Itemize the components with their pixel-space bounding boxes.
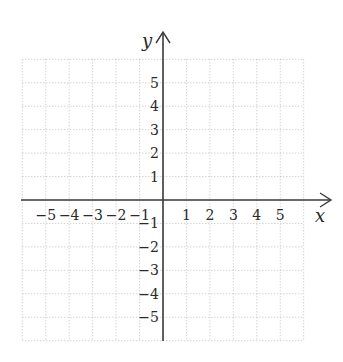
x-tick-label: −2 (106, 207, 127, 223)
x-axis-label: x (315, 205, 325, 226)
y-tick-label: 5 (150, 75, 159, 91)
axes (21, 32, 331, 341)
x-tick-label: 3 (229, 207, 238, 223)
x-tick-label: −3 (82, 207, 103, 223)
y-tick-label: −5 (138, 309, 159, 325)
y-tick-label: 1 (150, 169, 159, 185)
y-tick-label: 2 (150, 145, 159, 161)
y-tick-label: 3 (150, 122, 159, 138)
x-tick-labels: −5−4−3−2−112345 (35, 207, 284, 223)
y-axis-label: y (141, 30, 153, 51)
coordinate-plane: x y −5−4−3−2−112345 54321−1−2−3−4−5 (0, 0, 343, 362)
y-tick-label: −3 (138, 262, 159, 278)
x-tick-label: −4 (59, 207, 80, 223)
y-tick-label: −4 (138, 286, 159, 302)
x-tick-label: 5 (276, 207, 285, 223)
x-tick-label: 2 (205, 207, 214, 223)
y-tick-label: −2 (138, 239, 159, 255)
x-tick-label: −5 (35, 207, 56, 223)
y-tick-label: −1 (138, 215, 159, 231)
x-tick-label: 4 (252, 207, 261, 223)
x-tick-label: 1 (182, 207, 191, 223)
y-tick-label: 4 (150, 98, 159, 114)
